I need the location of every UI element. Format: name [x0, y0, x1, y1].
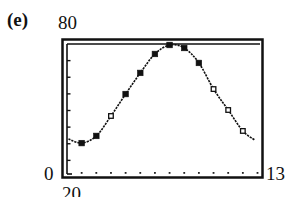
x-tick [154, 172, 156, 174]
x-tick [110, 172, 112, 174]
x-tick [139, 172, 141, 174]
screen-frame [63, 40, 263, 178]
data-markers [79, 42, 245, 146]
x-tick [183, 172, 185, 174]
fitted-curve [68, 45, 254, 144]
filled-square-marker [123, 91, 129, 97]
x-tick [257, 172, 259, 174]
x-tick [81, 172, 83, 174]
x-tick [227, 172, 229, 174]
filled-square-marker [94, 133, 100, 139]
x-tick [169, 172, 171, 174]
open-square-marker [241, 129, 246, 134]
filled-square-marker [79, 140, 85, 146]
x-tick [213, 172, 215, 174]
x-tick [125, 172, 127, 174]
calculator-plot [0, 0, 293, 197]
open-square-marker [226, 108, 231, 113]
x-tick [198, 172, 200, 174]
x-tick [95, 172, 97, 174]
open-square-marker [211, 87, 216, 92]
open-square-marker [109, 114, 114, 119]
filled-square-marker [137, 70, 143, 76]
x-tick [242, 172, 244, 174]
filled-square-marker [196, 60, 202, 66]
filled-square-marker [181, 45, 187, 51]
filled-square-marker [167, 42, 173, 48]
filled-square-marker [152, 51, 158, 57]
x-axis-ticks [81, 172, 259, 174]
